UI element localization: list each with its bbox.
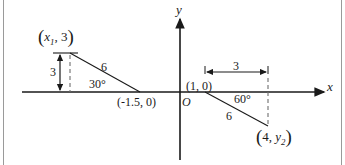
right-angle-label: 60° xyxy=(234,93,251,105)
x-axis-label: x xyxy=(327,80,333,93)
left-hypotenuse-label: 6 xyxy=(101,61,107,73)
right-width-label: 3 xyxy=(233,60,239,72)
geometry-diagram-figure: (x1, 3) 3 6 30° (-1.5, 0) O (1, 0) 3 60°… xyxy=(0,0,345,165)
right-terminal-point-label: (4, y2) xyxy=(256,130,292,146)
paren-close: ) xyxy=(285,126,291,147)
right-hypotenuse-label: 6 xyxy=(226,110,232,122)
left-height-label: 3 xyxy=(50,66,56,78)
left-angle-label: 30° xyxy=(89,78,106,90)
comma: , xyxy=(269,129,272,144)
right-x-intercept-label: (1, 0) xyxy=(186,80,212,92)
y-axis-label: y xyxy=(176,3,182,16)
origin-label: O xyxy=(182,96,191,108)
left-x-intercept-label: (-1.5, 0) xyxy=(117,96,156,108)
left-terminal-point-label: (x1, 3) xyxy=(38,30,74,46)
diagram-canvas xyxy=(0,0,345,165)
paren-close: ) xyxy=(67,26,73,47)
comma: , xyxy=(54,29,57,44)
